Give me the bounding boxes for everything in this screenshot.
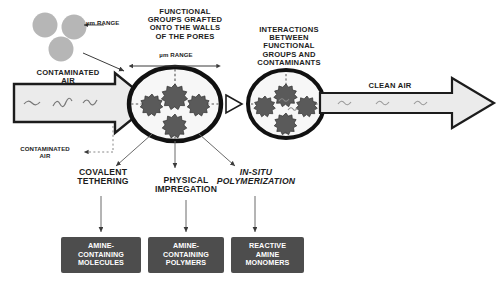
product-label-reactive-amine-monomers: REACTIVE AMINE MONOMERS (231, 237, 304, 273)
pore-cross-section-1 (129, 67, 221, 141)
route-label-in-situ-polymerization: IN-SITU POLYMERIZATION (208, 168, 304, 187)
captured-contaminated-air-label: CONTAMINATED AIR (7, 146, 83, 159)
route-to-product-arrows (101, 196, 255, 232)
clean-air-label: CLEAN AIR (345, 82, 435, 90)
pore-range-label: µm RANGE (145, 52, 207, 59)
interactions-caption: INTERACTIONS BETWEEN FUNCTIONAL GROUPS A… (243, 26, 335, 67)
captured-contaminant-path (84, 126, 113, 152)
pore-cross-section-2 (248, 70, 324, 138)
micro-particles-group (33, 13, 87, 62)
process-arrow-icon (226, 95, 242, 113)
particle-range-label: µm RANGE (86, 20, 128, 27)
product-label-amine-containing-molecules: AMINE- CONTAINING MOLECULES (61, 237, 141, 273)
product-label-amine-containing-polymers: AMINE- CONTAINING POLYMERS (148, 237, 224, 273)
diagram-canvas: µm RANGE µm RANGE FUNCTIONAL GROUPS GRAF… (0, 0, 503, 284)
route-label-covalent-tethering: COVALENT TETHERING (62, 168, 144, 187)
contaminated-air-inlet-label: CONTAMINATED AIR (24, 69, 112, 85)
functional-groups-caption: FUNCTIONAL GROUPS GRAFTED ONTO THE WALLS… (130, 8, 240, 41)
